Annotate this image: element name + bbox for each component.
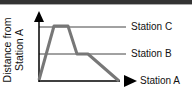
station-c-label: Station C <box>131 21 172 32</box>
x-axis-arrow-icon <box>124 75 137 87</box>
y-axis-arrow-icon <box>34 11 44 22</box>
station-a-label: Station A <box>140 75 180 86</box>
station-b-label: Station B <box>131 48 172 59</box>
